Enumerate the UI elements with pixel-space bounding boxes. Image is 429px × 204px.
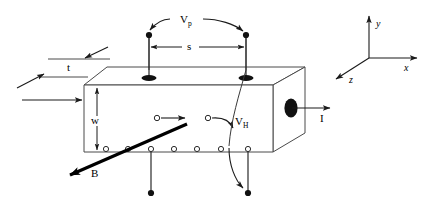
bottom-probe-terminal-right — [245, 190, 251, 196]
label-hall-voltage-subscript: H — [243, 121, 249, 130]
carrier-circle — [218, 146, 223, 151]
label-magnetic-field: B — [91, 167, 98, 179]
coordinate-axes: y x z — [336, 16, 417, 85]
t-arrow-into-gap — [85, 47, 108, 58]
probe-spacing-dimension — [149, 38, 246, 70]
label-current: I — [320, 112, 324, 124]
carrier-circle — [103, 146, 108, 151]
bottom-probe-terminal-left — [148, 190, 154, 196]
top-contact-pad-right — [239, 75, 254, 81]
label-width: w — [91, 114, 99, 126]
label-hall-voltage: V — [235, 115, 243, 127]
t-arrow-lower-in — [17, 74, 44, 88]
potential-probe-arrow — [150, 19, 243, 31]
carrier-circle-drift — [154, 115, 159, 120]
axis-label-y: y — [375, 18, 381, 29]
sample-top-face — [84, 67, 305, 85]
carrier-circle — [194, 146, 199, 151]
bottom-lead-assembly-right — [229, 148, 251, 196]
diagram-canvas: V p s t w — [0, 0, 429, 204]
top-probe-terminal-right — [243, 32, 249, 38]
sample-block — [84, 67, 305, 152]
top-probe-terminal-left — [146, 32, 152, 38]
hall-voltage-arrow-bottom — [229, 148, 243, 188]
carrier-circle — [245, 146, 250, 151]
label-potential-probe-subscript: p — [188, 19, 192, 28]
axis-label-z: z — [348, 74, 353, 85]
carrier-circle — [148, 146, 153, 151]
label-thickness: t — [67, 61, 70, 73]
hall-effect-diagram: V p s t w — [0, 0, 429, 204]
carrier-circle — [171, 146, 176, 151]
top-contact-pad-left — [142, 75, 157, 81]
label-potential-probe: V — [180, 13, 188, 25]
vp-arc-left — [150, 19, 170, 30]
label-probe-spacing: s — [187, 40, 191, 52]
vp-arc-right — [203, 19, 243, 31]
axis-label-x: x — [403, 62, 409, 73]
bottom-lead-assembly-left — [148, 152, 154, 196]
carrier-circle-deflect — [205, 115, 210, 120]
